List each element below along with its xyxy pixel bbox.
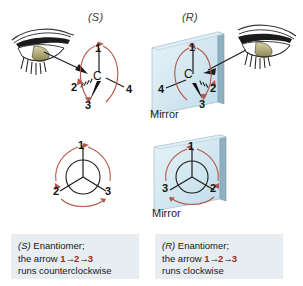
caption-s-line2: the arrow 1→2→3	[18, 253, 132, 266]
caption-s-n3: 3	[88, 253, 93, 264]
caption-s-enantiomer: (S) Enantiomer; the arrow 1→2→3 runs cou…	[11, 234, 139, 279]
projection-s-label-3: 3	[105, 186, 111, 197]
substituent-label-s-4: 4	[126, 84, 132, 95]
caption-r-title-rest: Enantiomer;	[175, 240, 229, 251]
molecule-s-tetrahedron	[62, 32, 144, 116]
descriptor-label-s: (S)	[88, 11, 103, 23]
caption-s-prefix: the arrow	[18, 253, 60, 264]
center-atom-r: C	[184, 68, 193, 80]
projection-s-label-1: 1	[78, 140, 84, 151]
bond-to-4	[106, 78, 124, 87]
caption-s-title-rest: Enantiomer;	[31, 240, 85, 251]
substituent-label-s-3: 3	[85, 100, 91, 111]
projection-r-label-1: 1	[188, 141, 194, 152]
caption-s-descriptor: (S)	[18, 240, 31, 251]
bond-to-2-hashed	[200, 81, 208, 88]
projection-r-label-3: 3	[162, 183, 168, 194]
descriptor-label-r: (R)	[182, 11, 198, 23]
caption-s-arrow1: →	[66, 253, 75, 264]
enantiomer-figure: (S) (R)	[0, 0, 303, 286]
substituent-label-s-1: 1	[95, 43, 101, 54]
caption-r-arrow2: →	[223, 253, 232, 264]
caption-r-prefix: the arrow	[162, 253, 204, 264]
substituent-label-s-2: 2	[71, 82, 77, 93]
substituent-label-r-4: 4	[158, 84, 164, 95]
caption-r-line1: (R) Enantiomer;	[162, 240, 276, 253]
caption-r-line3: runs clockwise	[162, 265, 276, 278]
substituent-label-r-1: 1	[189, 42, 195, 53]
caption-s-line3: runs counterclockwise	[18, 265, 132, 278]
caption-r-n3: 3	[232, 253, 237, 264]
substituent-label-r-3: 3	[199, 99, 205, 110]
caption-s-arrow2: →	[79, 253, 88, 264]
caption-r-arrow1: →	[210, 253, 219, 264]
caption-r-descriptor: (R)	[162, 240, 175, 251]
projection-s-label-2: 2	[53, 186, 59, 197]
caption-r-line2: the arrow 1→2→3	[162, 253, 276, 266]
caption-s-line1: (S) Enantiomer;	[18, 240, 132, 253]
caption-r-enantiomer: (R) Enantiomer; the arrow 1→2→3 runs clo…	[155, 234, 283, 279]
substituent-label-r-2: 2	[210, 83, 216, 94]
center-atom-s: C	[93, 70, 102, 82]
projection-r-label-2: 2	[210, 183, 216, 194]
